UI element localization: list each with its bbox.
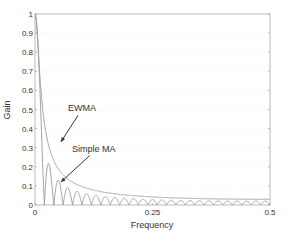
y-tick-label: 0.1 xyxy=(22,182,34,191)
y-tick-label: 0.7 xyxy=(22,67,34,76)
x-tick-label: 0 xyxy=(33,208,38,217)
y-tick-label: 0.6 xyxy=(22,86,34,95)
y-tick-label: 0.4 xyxy=(22,125,34,134)
y-tick-label: 0.8 xyxy=(22,48,34,57)
y-tick-label: 0.5 xyxy=(22,106,34,115)
frequency-response-chart: 00.10.20.30.40.50.60.70.80.9100.250.5 EW… xyxy=(0,0,291,235)
x-tick-label: 0.25 xyxy=(145,208,161,217)
x-axis-label: Frequency xyxy=(131,220,174,230)
annotation-label: EWMA xyxy=(68,103,96,113)
y-tick-label: 1 xyxy=(29,10,34,19)
y-tick-label: 0.3 xyxy=(22,144,34,153)
annotation-label: Simple MA xyxy=(72,144,116,154)
y-axis-label: Gain xyxy=(2,100,12,119)
annotations: EWMASimple MA xyxy=(61,103,116,182)
x-tick-label: 0.5 xyxy=(264,208,276,217)
y-tick-label: 0.9 xyxy=(22,29,34,38)
y-tick-label: 0.2 xyxy=(22,163,34,172)
